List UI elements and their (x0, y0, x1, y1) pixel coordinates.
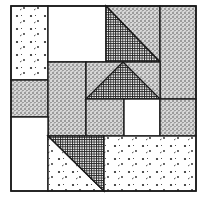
center-white-square (124, 99, 160, 136)
top-white-patch (48, 6, 106, 62)
bottom-right-dots-patch (104, 136, 196, 191)
center-left-stipple (48, 62, 86, 136)
right-stipple-square (160, 99, 196, 136)
top-left-dots-patch (11, 6, 48, 80)
right-stipple-column (160, 6, 196, 99)
left-stipple-square (11, 80, 48, 117)
bottom-left-white-patch (11, 117, 48, 191)
center-stipple-square (86, 99, 124, 136)
quilt-block-diagram (0, 0, 205, 198)
